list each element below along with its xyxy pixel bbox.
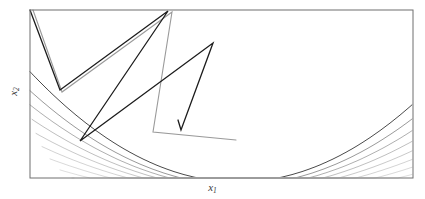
secondary-trajectory-group — [33, 10, 236, 140]
y-axis-label-sub: 2 — [12, 87, 21, 91]
figure-container: x1 x2 — [0, 0, 425, 199]
contour-line — [36, 133, 412, 178]
secondary-trajectory-path — [33, 10, 236, 140]
contour-lines-group — [30, 72, 412, 178]
optimization-trajectory-group — [30, 10, 213, 141]
contour-line — [30, 105, 412, 178]
contour-line — [42, 147, 412, 178]
contour-line — [50, 159, 412, 178]
trajectory-path — [30, 10, 213, 141]
x-axis-label: x1 — [0, 182, 425, 193]
contour-plot-svg — [0, 0, 425, 199]
y-axis-label-main: x — [7, 91, 19, 96]
axes-frame — [30, 10, 413, 178]
x-axis-label-sub: 1 — [213, 186, 217, 195]
y-axis-label: x2 — [8, 72, 19, 112]
